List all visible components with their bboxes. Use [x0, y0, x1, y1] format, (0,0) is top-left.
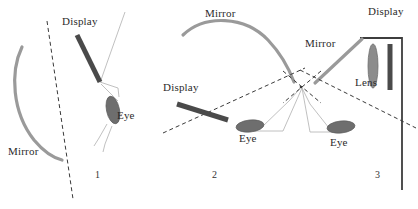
mirror-label: Mirror [305, 37, 336, 49]
display-label: Display [62, 15, 98, 27]
mirror-label: Mirror [205, 7, 236, 19]
eye-label: Eye [330, 136, 348, 148]
eye-label: Eye [117, 109, 135, 121]
display-label: Display [368, 5, 404, 17]
lens-label: Lens [355, 76, 377, 88]
display-bar [77, 35, 100, 82]
ray-line-apex-right [302, 88, 310, 132]
housing-frame [360, 38, 402, 190]
ray-line-cone-top [100, 82, 119, 97]
ray-line-lower-b [103, 126, 112, 152]
optical-axis-dashed [163, 68, 305, 133]
mirror-label: Mirror [8, 145, 39, 157]
eye-ellipse [326, 120, 355, 135]
panel-number-2: 2 [212, 169, 217, 180]
ray-crossing-point [300, 86, 303, 89]
optical-diagram: Display Eye Mirror 1 Mirror Display Eye … [0, 0, 418, 209]
display-label: Display [163, 81, 199, 93]
eye-label: Eye [239, 132, 257, 144]
panel-3: Mirror Display Lens Eye 3 [300, 5, 416, 190]
panel-number-3: 3 [375, 169, 380, 180]
curved-mirror [15, 47, 62, 160]
optical-axis-dashed [47, 21, 73, 199]
panel-number-1: 1 [95, 169, 100, 180]
figure-container: Display Eye Mirror 1 Mirror Display Eye … [0, 0, 418, 209]
ray-line-left-up [262, 86, 302, 127]
panel-1: Display Eye Mirror 1 [8, 12, 135, 199]
curved-mirror [183, 21, 294, 82]
ray-line-upper [101, 12, 125, 80]
panel-2: Mirror Display Eye 2 [163, 7, 305, 180]
ray-crossing-group [283, 71, 321, 103]
